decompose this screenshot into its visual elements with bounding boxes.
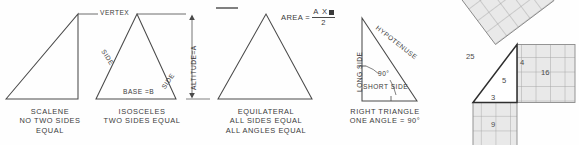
label-short-side: SHORT SIDE [363,83,408,90]
label-square-16: 16 [541,68,549,77]
caption-isosceles-line2: TWO SIDES EQUAL [88,116,196,125]
geometry-diagram-sheet: VERTEX ALTITUDE=A SIDE SIDE BASE =B AREA… [0,0,579,145]
label-long-side: LONG SIDE [356,52,363,92]
label-vertex: VERTEX [100,9,129,16]
label-leg-3: 3 [491,93,495,102]
area-formula-label: AREA = [281,13,310,22]
caption-right-line1: RIGHT TRIANGLE [332,107,438,116]
label-square-25: 25 [466,52,474,61]
caption-equilateral-line1: EQUILATERAL [206,107,326,116]
caption-equilateral-line3: ALL ANGLES EQUAL [206,126,326,135]
area-fraction: A X 2 [312,8,335,26]
caption-isosceles-line1: ISOSCELES [88,107,196,116]
caption-scalene-line1: SCALENE [0,107,100,116]
pythagorean-figure [452,0,575,145]
label-leg-4: 4 [520,58,524,67]
equilateral-triangle [218,14,312,99]
caption-scalene: SCALENE NO TWO SIDES EQUAL [0,107,100,135]
caption-isosceles: ISOSCELES TWO SIDES EQUAL [88,107,196,126]
base-symbol-box [329,10,334,15]
square-25 [452,0,554,45]
area-formula: AREA = A X 2 [281,8,335,26]
caption-scalene-line2: NO TWO SIDES [0,116,100,125]
caption-right-line2: ONE ANGLE = 90° [332,116,438,125]
area-denominator: 2 [321,18,326,27]
caption-scalene-line3: EQUAL [0,126,100,135]
label-altitude: ALTITUDE=A [190,45,197,90]
label-hyp-5: 5 [502,76,506,85]
label-base: BASE =B [123,88,154,95]
caption-right-triangle: RIGHT TRIANGLE ONE ANGLE = 90° [332,107,438,126]
caption-equilateral: EQUILATERAL ALL SIDES EQUAL ALL ANGLES E… [206,107,326,135]
caption-equilateral-line2: ALL SIDES EQUAL [206,116,326,125]
label-right-angle: 90° [378,70,389,77]
label-square-9: 9 [491,120,495,129]
area-numerator: A X [312,8,335,18]
scalene-triangle [6,14,78,99]
